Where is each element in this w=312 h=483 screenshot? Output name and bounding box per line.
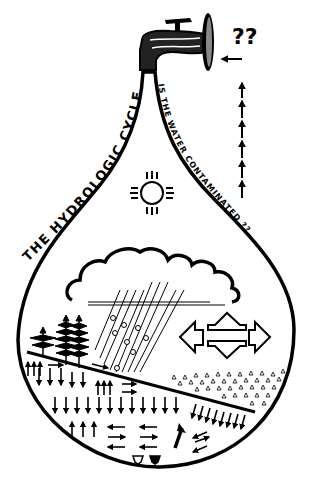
zia-sun-icon [130, 171, 174, 215]
four-direction-arrows-icon [180, 313, 270, 358]
bold-up-arrow-icon [175, 423, 186, 448]
water-drop-outline [18, 72, 294, 467]
contamination-question: IS THE WATER CONTAMINATED ?? [156, 83, 252, 235]
rain-lines [88, 282, 225, 372]
pentagon-markers [133, 456, 160, 464]
cloud-icon [67, 249, 239, 302]
groundwater-flow-arrows [28, 362, 245, 452]
faucet-icon [140, 13, 214, 71]
hydrologic-cycle-diagram: ?? THE HYDROLOGIC CYCLE IS THE WATER CON… [0, 0, 312, 483]
diagram-title: THE HYDROLOGIC CYCLE [20, 89, 146, 264]
faucet-question-marks: ?? [232, 24, 258, 49]
triangle-pattern [172, 369, 285, 405]
